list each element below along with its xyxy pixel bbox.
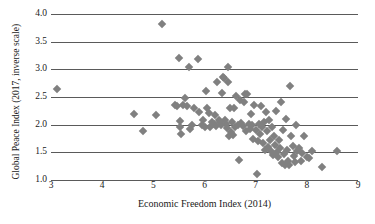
x-tick-label: 6 [202,181,207,191]
gridline-y-3.5 [51,42,358,43]
x-tick-label: 9 [356,181,361,191]
data-point [158,20,166,28]
data-point [152,110,160,118]
x-tick-label: 3 [49,181,54,191]
data-point [175,53,183,61]
data-point [53,84,61,92]
data-point [332,146,340,154]
gridline-y-4.0 [51,14,358,15]
data-point [246,109,254,117]
data-point [240,98,248,106]
y-tick-label: 3.5 [35,37,47,47]
data-point [235,155,243,163]
y-tick-label: 4.0 [35,9,47,19]
data-point [291,120,299,128]
data-point [318,162,326,170]
data-point [300,132,308,140]
x-tick-label: 5 [151,181,156,191]
plot-area [51,14,358,180]
data-point [252,170,260,178]
y-axis-tick-labels: 1.01.52.02.53.03.54.0 [0,0,47,224]
x-tick-label: 7 [253,181,258,191]
data-point [139,127,147,135]
y-tick-label: 2.0 [35,120,47,130]
data-point [286,82,294,90]
x-axis-title: Economic Freedom Index (2014) [51,199,358,209]
data-point [287,131,295,139]
data-point [202,87,210,95]
scatter-chart: Global Peace Index (2017, inverse scale)… [0,0,375,224]
data-point [272,107,280,115]
gridline-y-3.0 [51,69,358,70]
y-tick-label: 1.0 [35,175,47,185]
data-point [177,130,185,138]
x-tick-label: 4 [100,181,105,191]
data-point [279,126,287,134]
data-point [194,55,202,63]
x-tick-label: 8 [304,181,309,191]
gridline-y-2.5 [51,97,358,98]
data-point [130,109,138,117]
y-tick-label: 3.0 [35,65,47,75]
data-point [282,115,290,123]
data-point [277,98,285,106]
y-tick-label: 2.5 [35,92,47,102]
y-tick-label: 1.5 [35,148,47,158]
